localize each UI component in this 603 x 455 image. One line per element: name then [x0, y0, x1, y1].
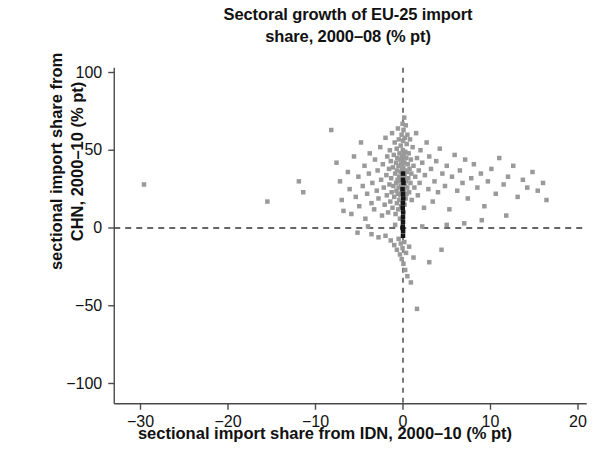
data-point: [381, 162, 386, 167]
data-point: [422, 206, 427, 211]
data-point: [494, 192, 499, 197]
data-point: [409, 280, 414, 285]
data-point: [359, 140, 364, 145]
data-point: [372, 207, 377, 212]
x-tick-label: 10: [482, 413, 500, 431]
data-point: [409, 157, 414, 162]
data-point: [401, 171, 406, 176]
data-point: [376, 235, 381, 240]
data-point: [404, 142, 409, 147]
data-point: [405, 274, 410, 279]
data-point: [406, 151, 411, 156]
data-point: [482, 204, 487, 209]
x-tick-label: 0: [399, 413, 408, 431]
data-point: [407, 244, 412, 249]
data-point: [415, 156, 420, 161]
data-point: [370, 181, 375, 186]
data-point: [404, 251, 409, 256]
data-point: [501, 182, 506, 187]
data-point: [401, 192, 406, 197]
data-point: [452, 153, 457, 158]
data-point: [390, 131, 395, 136]
data-point: [423, 173, 428, 178]
data-point: [382, 202, 387, 207]
data-point: [392, 243, 397, 248]
data-point: [408, 137, 413, 142]
data-point: [400, 187, 405, 192]
data-point: [424, 140, 429, 145]
data-point: [400, 226, 405, 231]
data-point: [399, 257, 404, 262]
data-point: [544, 198, 549, 203]
data-point: [401, 196, 406, 201]
data-point: [463, 157, 468, 162]
data-point: [393, 223, 398, 228]
data-point: [411, 164, 416, 169]
data-point: [411, 255, 416, 259]
data-point: [363, 216, 368, 221]
data-point: [469, 176, 474, 181]
data-point: [394, 146, 399, 151]
data-point: [375, 188, 380, 193]
x-tick-label: −20: [214, 413, 241, 431]
data-point: [368, 151, 373, 156]
data-point: [380, 213, 385, 218]
data-point: [400, 206, 405, 211]
data-point: [365, 192, 370, 197]
y-tick-label: −50: [40, 297, 102, 315]
data-point: [414, 131, 419, 136]
data-point: [367, 171, 372, 176]
data-point: [405, 132, 410, 137]
data-point: [475, 185, 480, 190]
data-point: [385, 154, 390, 159]
data-point: [392, 140, 397, 145]
data-point: [340, 198, 345, 203]
data-point: [410, 145, 415, 150]
data-point: [472, 162, 477, 167]
y-tick-label: 50: [40, 141, 102, 159]
y-tick-label: 0: [40, 219, 102, 237]
data-point: [354, 195, 359, 200]
data-point: [382, 185, 387, 190]
data-point: [427, 260, 432, 265]
data-point: [440, 171, 445, 176]
data-point: [455, 188, 460, 193]
data-point: [426, 187, 431, 192]
data-point: [525, 185, 530, 190]
data-point: [427, 154, 432, 159]
data-point: [347, 187, 352, 192]
data-point: [401, 220, 406, 225]
data-point: [401, 234, 406, 239]
data-point: [420, 160, 425, 165]
data-point: [447, 207, 452, 212]
data-point: [401, 181, 406, 186]
data-point: [407, 190, 412, 195]
data-point: [297, 179, 302, 184]
data-point: [373, 157, 378, 162]
data-point: [378, 145, 383, 150]
data-point: [497, 156, 502, 161]
data-point: [400, 246, 405, 251]
data-point: [410, 198, 415, 203]
data-point: [466, 196, 471, 201]
data-point: [402, 240, 407, 245]
data-point: [450, 174, 455, 179]
data-point: [511, 164, 516, 169]
data-point: [409, 171, 414, 176]
data-points-gray: [142, 115, 549, 311]
data-point: [401, 262, 406, 267]
data-point: [402, 115, 407, 120]
data-point: [397, 137, 402, 142]
data-point: [413, 174, 418, 179]
data-point: [460, 181, 465, 186]
data-point: [387, 182, 392, 187]
data-point: [458, 168, 463, 173]
data-point: [530, 170, 535, 175]
data-point: [142, 182, 147, 187]
data-point: [395, 248, 400, 253]
data-point: [480, 218, 485, 223]
reference-lines: [114, 68, 587, 404]
data-point: [385, 193, 390, 198]
data-point: [301, 190, 306, 195]
axis-ticks: [108, 73, 578, 410]
